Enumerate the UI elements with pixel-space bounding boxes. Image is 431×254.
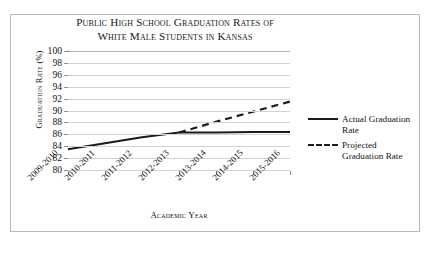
legend-swatch-dashed-line-icon [308,144,338,146]
y-tick-mark-88 [64,122,68,123]
legend-item-actual: Actual Graduation Rate [308,114,420,136]
chart-title-line-1: Public High School Graduation Rates of [44,16,306,30]
x-axis-title: Academic Year [68,210,290,220]
y-tick-label-92: 92 [22,94,62,104]
gridline-100 [68,51,290,52]
y-tick-mark-82 [64,158,68,159]
legend-swatch-solid-line-icon [308,118,338,120]
gridline-98 [68,63,290,64]
legend-item-projected: Projected Graduation Rate [308,140,420,162]
x-tick-mark-2015-2016 [290,171,291,175]
gridline-92 [68,99,290,100]
chart-legend: Actual Graduation Rate Projected Graduat… [308,114,420,166]
gridline-90 [68,111,290,112]
chart-title: Public High School Graduation Rates of W… [44,16,306,43]
y-tick-label-90: 90 [22,106,62,116]
figure: Public High School Graduation Rates of W… [0,0,431,254]
y-tick-mark-90 [64,111,68,112]
y-tick-label-86: 86 [22,129,62,139]
y-tick-label-88: 88 [22,117,62,127]
y-tick-label-98: 98 [22,58,62,68]
legend-label-actual: Actual Graduation Rate [342,114,420,136]
y-tick-label-100: 100 [22,46,62,56]
chart-title-line-2: White Male Students in Kansas [44,30,306,44]
y-tick-mark-92 [64,99,68,100]
series-projected-graduation-rate [179,102,290,133]
legend-label-projected: Projected Graduation Rate [342,140,420,162]
gridline-94 [68,87,290,88]
y-tick-mark-96 [64,75,68,76]
gridline-88 [68,122,290,123]
y-axis-tick-labels: Graduation Rate (%) 10098969492908886848… [20,0,62,254]
y-tick-mark-94 [64,87,68,88]
y-tick-label-96: 96 [22,70,62,80]
plot-area [68,51,290,170]
gridline-96 [68,75,290,76]
y-tick-mark-100 [64,51,68,52]
gridline-82 [68,158,290,159]
y-tick-mark-98 [64,63,68,64]
y-tick-label-94: 94 [22,82,62,92]
